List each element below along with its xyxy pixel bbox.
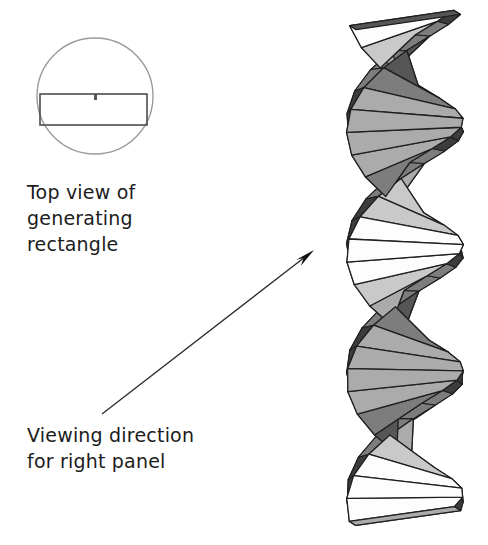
right-panel [330,0,488,545]
figure-root: Top view of generating rectangle Viewing… [0,0,488,545]
caption-viewing-direction: Viewing direction for right panel [27,422,277,474]
left-panel: Top view of generating rectangle Viewing… [0,0,330,545]
helix-facets [347,10,464,525]
arrow-shaft [102,257,305,414]
arrow-head-icon [296,250,314,266]
twisted-rectangle-helix [330,0,488,545]
